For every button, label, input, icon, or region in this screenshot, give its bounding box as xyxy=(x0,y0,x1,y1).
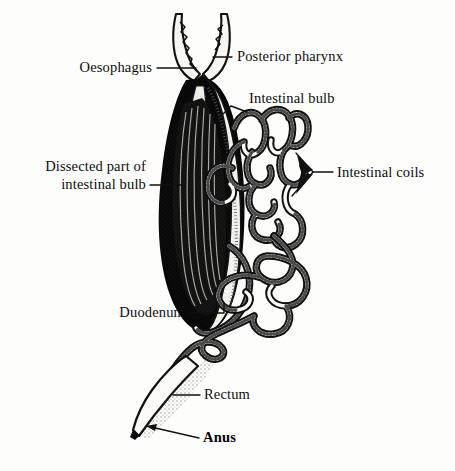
anatomical-figure: Oesophagus Posterior pharynx Intestinal … xyxy=(0,0,455,471)
label-anus: Anus xyxy=(203,429,236,445)
label-dissected-bulb-line1: Dissected part of xyxy=(45,158,146,174)
label-duodenum: Duodenum xyxy=(119,304,185,320)
alimentary-canal-diagram: Oesophagus Posterior pharynx Intestinal … xyxy=(0,0,455,471)
label-intestinal-coils: Intestinal coils xyxy=(337,164,425,180)
label-rectum: Rectum xyxy=(204,386,251,402)
label-dissected-bulb-line2: intestinal bulb xyxy=(61,176,146,192)
label-oesophagus: Oesophagus xyxy=(80,59,153,75)
label-posterior-pharynx: Posterior pharynx xyxy=(237,48,344,64)
label-intestinal-bulb: Intestinal bulb xyxy=(249,90,335,106)
